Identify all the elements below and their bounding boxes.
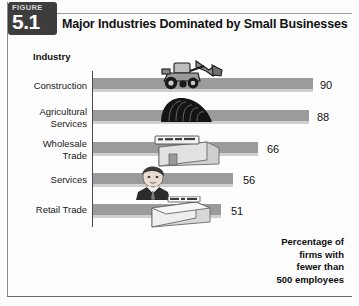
- figure-container: FIGURE 5.1 Major Industries Dominated by…: [0, 0, 359, 306]
- businessman-icon: [134, 166, 172, 200]
- bar-value-agricultural-services: 88: [317, 111, 329, 123]
- storefront-icon: [144, 196, 216, 228]
- bar-value-wholesale-trade: 66: [267, 143, 279, 155]
- category-label-construction: Construction: [0, 80, 87, 92]
- category-label-retail-trade: Retail Trade: [0, 204, 87, 216]
- bar-value-retail-trade: 51: [231, 205, 243, 217]
- chart-caption: Percentage of firms with fewer than 500 …: [194, 236, 344, 286]
- excavator-icon: [152, 57, 224, 91]
- bar-value-construction: 90: [320, 79, 332, 91]
- category-label-services: Services: [0, 174, 87, 186]
- plow-icon: [155, 96, 217, 124]
- category-label-agricultural-services: Agricultural Services: [0, 106, 87, 129]
- category-label-wholesale-trade: Wholesale Trade: [0, 138, 87, 161]
- bar-value-services: 56: [243, 174, 255, 186]
- warehouse-icon: [147, 134, 223, 167]
